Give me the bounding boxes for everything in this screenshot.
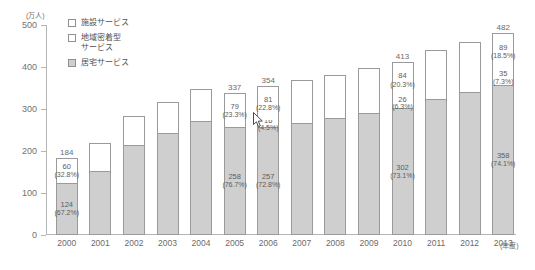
segment-home-2012[interactable] <box>459 92 481 235</box>
segment-facility-label-2005: 79(23.3%) <box>222 102 247 118</box>
legend-item-facility: 施設サービス <box>68 18 129 28</box>
x-axis-label-2001: 2001 <box>91 238 110 248</box>
y-tick-100: 100 <box>41 193 46 194</box>
x-axis-label-2009: 2009 <box>359 238 378 248</box>
total-label-2010: 413 <box>396 52 409 61</box>
segment-facility-2001[interactable] <box>89 143 111 170</box>
segment-facility-2009[interactable] <box>358 68 380 103</box>
x-axis-label-2011: 2011 <box>427 238 445 248</box>
legend-label-community: 地域密着型 サービス <box>81 33 121 53</box>
x-axis-label-2004: 2004 <box>192 238 211 248</box>
segment-home-2001[interactable] <box>89 171 111 235</box>
total-label-2005: 337 <box>228 83 241 92</box>
segment-home-2003[interactable] <box>157 133 179 235</box>
total-label-2000: 184 <box>60 148 73 157</box>
segment-facility-2012[interactable] <box>459 42 481 79</box>
segment-home-2004[interactable] <box>190 121 212 235</box>
segment-home-2000[interactable]: 124(67.2%) <box>56 183 78 235</box>
segment-community-label-2013: 35(7.3%) <box>493 70 514 85</box>
segment-facility-label-2006: 81(22.8%) <box>256 96 281 112</box>
bar-2005[interactable]: 258(76.7%)79(23.3%)337 <box>224 93 246 235</box>
legend-item-home: 居宅サービス <box>68 58 129 68</box>
y-tick-label-100: 100 <box>22 188 37 198</box>
segment-facility-2003[interactable] <box>157 102 179 133</box>
x-axis-label-2006: 2006 <box>259 238 278 248</box>
total-label-2006: 354 <box>262 76 275 85</box>
bar-2006[interactable]: 257(72.8%)16(4.5%)81(22.8%)354 <box>257 86 279 235</box>
bar-2008[interactable] <box>324 75 346 235</box>
segment-facility-2013[interactable]: 89(18.5%) <box>492 33 514 70</box>
segment-community-2013[interactable]: 35(7.3%) <box>492 70 514 85</box>
segment-home-2006[interactable]: 257(72.8%) <box>257 127 279 235</box>
segment-home-2008[interactable] <box>324 118 346 235</box>
y-tick-label-300: 300 <box>22 104 37 114</box>
x-axis-label-2002: 2002 <box>124 238 143 248</box>
x-axis-label-2000: 2000 <box>57 238 76 248</box>
segment-facility-2011[interactable] <box>425 50 447 86</box>
y-axis-unit-label: (万人) <box>26 10 45 20</box>
segment-community-2010[interactable]: 26(6.3%) <box>392 97 414 108</box>
y-tick-300: 300 <box>41 109 46 110</box>
bar-2007[interactable] <box>291 80 313 235</box>
segment-community-2012[interactable] <box>459 79 481 92</box>
legend-label-facility: 施設サービス <box>81 18 129 28</box>
bar-2012[interactable] <box>459 42 481 235</box>
x-axis-label-2003: 2003 <box>158 238 177 248</box>
x-axis-label-2012: 2012 <box>460 238 479 248</box>
segment-home-label-2006: 257(72.8%) <box>256 173 281 189</box>
segment-home-label-2005: 258(76.7%) <box>222 173 247 189</box>
segment-home-2009[interactable] <box>358 113 380 235</box>
segment-community-2009[interactable] <box>358 103 380 113</box>
y-tick-400: 400 <box>41 67 46 68</box>
segment-home-label-2013: 358(74.1%) <box>491 152 516 168</box>
segment-facility-2008[interactable] <box>324 75 346 110</box>
total-label-2013: 482 <box>497 23 510 32</box>
segment-community-2011[interactable] <box>425 86 447 98</box>
segment-home-2011[interactable] <box>425 99 447 236</box>
bar-2003[interactable] <box>157 102 179 235</box>
bar-2009[interactable] <box>358 68 380 235</box>
y-tick-label-0: 0 <box>32 230 37 240</box>
segment-facility-2000[interactable]: 60(32.8%) <box>56 158 78 183</box>
segment-facility-2007[interactable] <box>291 80 313 114</box>
chart-legend: 施設サービス 地域密着型 サービス 居宅サービス <box>68 18 129 73</box>
segment-home-2005[interactable]: 258(76.7%) <box>224 127 246 235</box>
y-tick-500: 500 <box>41 25 46 26</box>
segment-home-2010[interactable]: 302(73.1%) <box>392 108 414 235</box>
legend-item-community: 地域密着型 サービス <box>68 33 129 53</box>
segment-facility-label-2010: 84(20.3%) <box>390 72 415 88</box>
legend-swatch-community-icon <box>68 34 76 42</box>
segment-facility-2010[interactable]: 84(20.3%) <box>392 62 414 97</box>
segment-home-label-2010: 302(73.1%) <box>390 163 415 179</box>
y-tick-label-500: 500 <box>22 20 37 30</box>
x-axis-label-2008: 2008 <box>326 238 345 248</box>
segment-community-2007[interactable] <box>291 115 313 123</box>
bar-2000[interactable]: 124(67.2%)60(32.8%)184 <box>56 158 78 235</box>
segment-home-2007[interactable] <box>291 123 313 235</box>
segment-facility-2002[interactable] <box>123 116 145 145</box>
segment-facility-2004[interactable] <box>190 89 212 121</box>
bar-2004[interactable] <box>190 89 212 235</box>
legend-swatch-facility-icon <box>68 19 76 27</box>
segment-home-2002[interactable] <box>123 145 145 235</box>
segment-community-label-2010: 26(6.3%) <box>392 95 413 110</box>
segment-facility-label-2000: 60(32.8%) <box>55 163 80 179</box>
bar-2002[interactable] <box>123 116 145 235</box>
bar-2001[interactable] <box>89 143 111 235</box>
chart-container: (万人) 0100200300400500 124(67.2%)60(32.8%… <box>0 0 535 270</box>
x-axis-label-2007: 2007 <box>292 238 311 248</box>
segment-facility-2005[interactable]: 79(23.3%) <box>224 93 246 126</box>
x-axis-unit-label: (年度) <box>500 240 519 250</box>
segment-facility-2006[interactable]: 81(22.8%) <box>257 86 279 120</box>
bar-2010[interactable]: 302(73.1%)26(6.3%)84(20.3%)413 <box>392 62 414 235</box>
segment-community-2006[interactable]: 16(4.5%) <box>257 120 279 127</box>
y-tick-200: 200 <box>41 151 46 152</box>
x-axis-label-2005: 2005 <box>225 238 244 248</box>
y-tick-label-200: 200 <box>22 146 37 156</box>
segment-home-2013[interactable]: 358(74.1%) <box>492 85 514 235</box>
bar-2013[interactable]: 358(74.1%)35(7.3%)89(18.5%)482 <box>492 33 514 235</box>
legend-swatch-home-icon <box>68 59 76 67</box>
legend-label-home: 居宅サービス <box>81 58 129 68</box>
bar-2011[interactable] <box>425 50 447 235</box>
segment-community-2008[interactable] <box>324 109 346 118</box>
